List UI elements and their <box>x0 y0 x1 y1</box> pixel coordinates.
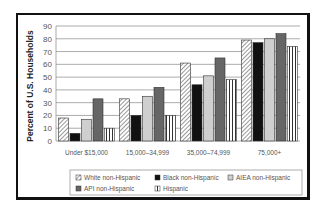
bar <box>215 58 225 141</box>
bars <box>59 34 298 141</box>
x-category-label: 15,000–34,999 <box>126 149 170 156</box>
x-category-label: Under $15,000 <box>65 149 108 156</box>
bar <box>204 76 214 141</box>
bar <box>253 43 263 141</box>
bar <box>59 118 69 141</box>
bar <box>120 99 130 141</box>
bar <box>131 115 141 141</box>
legend-label: Black non-Hispanic <box>163 174 219 182</box>
y-tick-label: 0 <box>48 137 53 146</box>
bar <box>242 40 252 141</box>
x-axis-categories: Under $15,00015,000–34,99935,000–74,9997… <box>65 149 282 156</box>
y-axis-label: Percent of U.S. Households <box>25 30 35 142</box>
y-tick-label: 20 <box>43 111 52 120</box>
legend-swatch <box>76 175 81 180</box>
bar <box>192 85 202 141</box>
legend-label: API non-Hispanic <box>84 185 135 193</box>
legend-swatch <box>228 175 233 180</box>
bar <box>276 34 286 141</box>
bar <box>105 128 115 141</box>
y-tick-label: 10 <box>43 124 52 133</box>
bar <box>93 99 103 141</box>
bar <box>143 96 153 141</box>
bar <box>181 63 191 141</box>
bar <box>70 133 80 141</box>
y-axis-ticks: 0102030405060708090 <box>43 22 52 146</box>
bar <box>227 80 237 141</box>
x-category-label: 35,000–74,999 <box>187 149 231 156</box>
y-tick-label: 70 <box>43 48 52 57</box>
y-tick-label: 90 <box>43 22 52 31</box>
legend-label: White non-Hispanic <box>84 174 141 182</box>
gridlines <box>56 26 300 141</box>
bar <box>154 87 164 141</box>
legend-label: AIEA non-Hispanic <box>236 174 291 182</box>
legend-swatch <box>76 186 81 191</box>
bar <box>166 115 176 141</box>
bar <box>82 119 92 141</box>
bar-chart: 0102030405060708090 Percent of U.S. Hous… <box>0 0 328 216</box>
bar <box>288 46 298 141</box>
y-tick-label: 60 <box>43 60 52 69</box>
bar <box>265 39 275 141</box>
legend-label: Hispanic <box>163 185 189 193</box>
y-tick-label: 50 <box>43 73 52 82</box>
y-tick-label: 80 <box>43 35 52 44</box>
y-tick-label: 40 <box>43 86 52 95</box>
legend-swatch <box>155 186 160 191</box>
x-category-label: 75,000+ <box>258 149 282 156</box>
y-tick-label: 30 <box>43 99 52 108</box>
legend-swatch <box>155 175 160 180</box>
